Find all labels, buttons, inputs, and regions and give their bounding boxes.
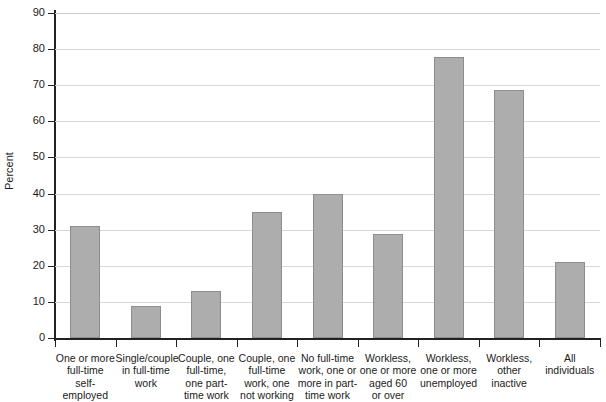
x-axis-label-line: Workless, [479, 352, 540, 364]
x-axis-label-line: not working [237, 389, 298, 401]
x-axis-label-line: employed [55, 389, 116, 401]
y-tick-label: 40 [5, 188, 45, 199]
x-axis-label-line: aged 60 [358, 377, 419, 389]
y-tick-mark [48, 338, 55, 339]
x-axis-label-line: time work [297, 389, 358, 401]
x-axis-label: All individuals [539, 352, 600, 377]
x-axis-label-line: Couple, one [237, 352, 298, 364]
y-tick-mark [48, 121, 55, 122]
y-tick-mark [48, 13, 55, 14]
x-axis-line [54, 338, 601, 340]
y-tick-label: 0 [5, 332, 45, 343]
x-axis-label-line: Workless, [418, 352, 479, 364]
y-tick-mark [48, 157, 55, 158]
x-tick-mark [116, 340, 117, 347]
y-tick-mark [48, 49, 55, 50]
x-tick-mark [600, 340, 601, 347]
x-tick-mark [176, 340, 177, 347]
x-axis-label-line: No full-time [297, 352, 358, 364]
y-tick-label: 80 [5, 43, 45, 54]
x-axis-label-line: one part- [176, 377, 237, 389]
x-tick-mark [418, 340, 419, 347]
y-tick-label: 50 [5, 151, 45, 162]
gridline [55, 13, 600, 14]
bar [70, 226, 100, 338]
x-tick-mark [55, 340, 56, 347]
bar [373, 234, 403, 338]
gridline [55, 85, 600, 86]
bar [434, 57, 464, 338]
x-axis-label-line: All individuals [539, 352, 600, 377]
x-axis-label-line: time work [176, 389, 237, 401]
y-tick-label: 70 [5, 79, 45, 90]
x-axis-label: Workless,other inactive [479, 352, 540, 389]
y-tick-mark [48, 85, 55, 86]
x-tick-mark [539, 340, 540, 347]
gridline [55, 49, 600, 50]
x-axis-label: Single/couplein full-timework [116, 352, 177, 389]
x-axis-label-line: work [116, 377, 177, 389]
bar [313, 194, 343, 338]
y-tick-label: 30 [5, 224, 45, 235]
x-axis-label-line: full-time [55, 364, 116, 376]
x-axis-label: Couple, onefull-time,one part-time work [176, 352, 237, 402]
bar [131, 306, 161, 339]
y-tick-label: 20 [5, 260, 45, 271]
y-tick-label: 60 [5, 115, 45, 126]
x-axis-label-line: one or more [358, 364, 419, 376]
x-axis-label: One or morefull-timeself-employed [55, 352, 116, 402]
x-axis-label: No full-timework, one ormore in part-tim… [297, 352, 358, 402]
x-axis-label: Workless,one or moreaged 60or over [358, 352, 419, 402]
y-tick-label: 10 [5, 296, 45, 307]
y-tick-mark [48, 302, 55, 303]
x-axis-label-line: more in part- [297, 377, 358, 389]
bar [191, 291, 221, 338]
y-tick-label: 90 [5, 7, 45, 18]
y-tick-mark [48, 230, 55, 231]
x-axis-label: Workless,one or moreunemployed [418, 352, 479, 389]
x-axis-label-line: Workless, [358, 352, 419, 364]
x-axis-label-line: One or more [55, 352, 116, 364]
x-axis-label-line: full-time [237, 364, 298, 376]
x-axis-label-line: Couple, one [176, 352, 237, 364]
y-tick-mark [48, 266, 55, 267]
x-axis-label-line: Single/couple [116, 352, 177, 364]
x-axis-label-line: full-time, [176, 364, 237, 376]
x-tick-mark [237, 340, 238, 347]
bar [555, 262, 585, 338]
x-tick-mark [358, 340, 359, 347]
x-axis-label-line: work, one or [297, 364, 358, 376]
x-axis-label-line: unemployed [418, 377, 479, 389]
x-axis-label-line: work, one [237, 377, 298, 389]
x-tick-mark [479, 340, 480, 347]
y-tick-mark [48, 194, 55, 195]
x-axis-label-line: self- [55, 377, 116, 389]
x-axis-label-line: other inactive [479, 364, 540, 389]
x-axis-label-line: or over [358, 389, 419, 401]
x-axis-label: Couple, onefull-timework, onenot working [237, 352, 298, 402]
x-axis-label-line: in full-time [116, 364, 177, 376]
x-tick-mark [297, 340, 298, 347]
bar [252, 212, 282, 338]
x-axis-label-line: one or more [418, 364, 479, 376]
bar [494, 90, 524, 338]
